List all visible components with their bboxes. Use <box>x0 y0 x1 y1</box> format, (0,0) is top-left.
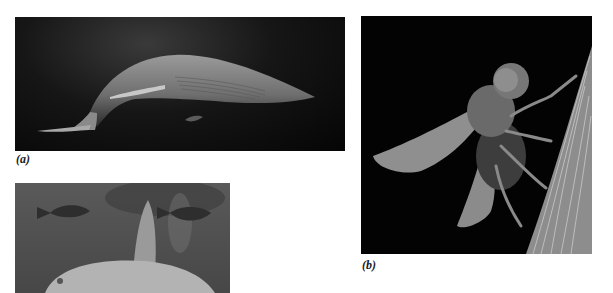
fly-photo <box>361 16 592 254</box>
caption-b: (b) <box>362 258 376 273</box>
sunfish-image-icon <box>15 183 230 293</box>
caption-a: (a) <box>16 152 30 167</box>
fly-image-icon <box>361 16 592 254</box>
whale-photo <box>15 17 345 151</box>
whale-image-icon <box>15 17 345 151</box>
sunfish-photo <box>15 183 230 293</box>
